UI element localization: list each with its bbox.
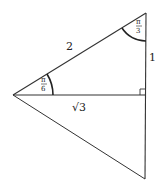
hypotenuse-label: 2 — [66, 40, 73, 53]
angle-left-numerator: π — [41, 76, 46, 84]
angle-left-denominator: 6 — [41, 85, 46, 93]
angle-top-denominator: 3 — [136, 27, 140, 35]
vertical-line — [145, 13, 146, 179]
vertical-side-label: 1 — [149, 51, 156, 64]
triangle-diagram: 2 1 √3 π 6 π 3 — [0, 0, 158, 188]
angle-arc-left — [47, 74, 53, 95]
base-label: √3 — [72, 101, 86, 114]
angle-arc-top — [122, 28, 146, 41]
hypotenuse-line — [13, 13, 146, 95]
angle-top-numerator: π — [136, 18, 141, 26]
